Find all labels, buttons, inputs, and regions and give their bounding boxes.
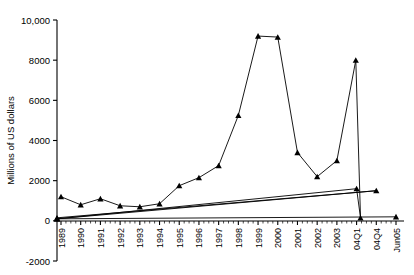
x-tick-label: 1999 — [254, 228, 264, 248]
y-axis-title: Millions of US dollars — [5, 96, 16, 185]
x-tick-label: 2000 — [273, 228, 283, 248]
x-tick-label: 2002 — [313, 228, 323, 248]
y-tick-label: -2000 — [26, 256, 50, 267]
x-tick-label: 1996 — [194, 228, 204, 248]
line-chart: 10,00080006000400020000-2000Millions of … — [0, 0, 414, 275]
data-point-marker — [97, 196, 103, 202]
data-point-marker — [196, 175, 202, 181]
data-point-marker — [58, 194, 64, 200]
x-tick-label: 1997 — [214, 228, 224, 248]
x-tick-label: 1992 — [116, 228, 126, 248]
x-tick-label: 1993 — [135, 228, 145, 248]
x-tick-label: Jun05 — [392, 228, 402, 253]
y-tick-label: 0 — [45, 215, 50, 226]
y-tick-label: 8000 — [29, 55, 50, 66]
x-tick-label: 1995 — [175, 228, 185, 248]
y-tick-label: 10,000 — [21, 15, 50, 26]
data-point-marker — [357, 215, 363, 221]
x-tick-label: 04Q4 — [372, 228, 382, 250]
x-tick-label: 1989 — [57, 228, 67, 248]
y-tick-label: 6000 — [29, 95, 50, 106]
data-point-marker — [235, 112, 241, 118]
x-tick-label: 1994 — [155, 228, 165, 248]
data-series-line — [57, 36, 396, 219]
data-point-marker — [216, 163, 222, 169]
chart-container: 10,00080006000400020000-2000Millions of … — [0, 0, 414, 275]
x-tick-label: 1990 — [76, 228, 86, 248]
x-tick-label: 2003 — [332, 228, 342, 248]
y-tick-label: 2000 — [29, 175, 50, 186]
data-point-marker — [176, 183, 182, 189]
data-point-marker — [353, 57, 359, 63]
x-tick-label: 1998 — [234, 228, 244, 248]
data-point-marker — [78, 202, 84, 208]
x-tick-label: 2001 — [293, 228, 303, 248]
x-tick-label: 1991 — [96, 228, 106, 248]
data-point-marker — [294, 150, 300, 156]
x-tick-label: 04Q1 — [352, 228, 362, 250]
data-point-marker — [334, 158, 340, 164]
y-tick-label: 4000 — [29, 135, 50, 146]
